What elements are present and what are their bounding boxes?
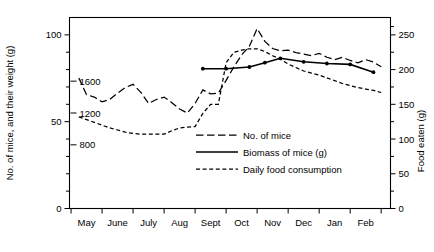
legend-label-1: Biomass of mice (g) [243, 147, 327, 158]
left-tick-label: 100 [46, 29, 62, 40]
inner-tick-label: 800 [80, 139, 96, 150]
series-line-0 [79, 29, 381, 113]
y2-axis-title: Food eaten (g) [415, 110, 426, 172]
x-tick-label: May [78, 217, 96, 228]
series-marker [247, 65, 251, 69]
x-tick-label: Nov [264, 217, 281, 228]
inner-tick-label: 1200 [80, 108, 101, 119]
left-tick-label: 50 [51, 116, 62, 127]
x-tick-label: Sept [201, 217, 221, 228]
series-marker [325, 62, 329, 66]
plot-frame [70, 18, 391, 209]
data-series-group [79, 29, 381, 135]
x-tick-label: Aug [171, 217, 188, 228]
x-tick-label: July [140, 217, 157, 228]
left-tick-label: 0 [56, 203, 61, 214]
x-tick-label: Jan [327, 217, 342, 228]
y-axis-title: No. of mice, and their weight (g) [4, 46, 15, 181]
series-marker [263, 61, 267, 65]
right-tick-label: 0 [399, 203, 404, 214]
legend-label-2: Daily food consumption [243, 164, 342, 175]
x-tick-label: Feb [358, 217, 374, 228]
right-tick-label: 200 [399, 64, 415, 75]
right-axis: 050100150200250 [391, 27, 415, 215]
right-tick-label: 50 [399, 168, 410, 179]
x-tick-label: June [107, 217, 128, 228]
series-marker [348, 62, 352, 66]
legend: No. of miceBiomass of mice (g)Daily food… [196, 130, 342, 175]
x-tick-label: Oct [234, 217, 249, 228]
legend-label-0: No. of mice [243, 130, 291, 141]
right-tick-label: 250 [399, 29, 415, 40]
series-marker [302, 60, 306, 64]
series-marker [201, 67, 205, 71]
right-tick-label: 150 [399, 99, 415, 110]
x-axis: MayJuneJulyAugSeptOctNovDecJanFeb [71, 209, 381, 228]
series-marker [372, 70, 376, 74]
x-tick-label: Dec [295, 217, 312, 228]
left-axis: 050100 [46, 29, 70, 214]
right-tick-label: 100 [399, 134, 415, 145]
inner-scale: 80012001600 [71, 76, 101, 151]
inner-tick-label: 1600 [80, 76, 101, 87]
population-food-line-chart: 05010080012001600050100150200250MayJuneJ… [0, 0, 434, 252]
series-line-2 [79, 49, 381, 134]
chart-container: 05010080012001600050100150200250MayJuneJ… [0, 0, 434, 252]
